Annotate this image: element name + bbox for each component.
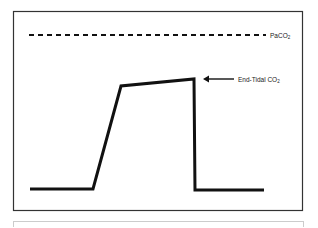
lower-panel [14, 222, 304, 228]
capnogram-diagram: PaCO2 End-Tidal CO2 [0, 0, 318, 227]
diagram-frame [14, 12, 303, 211]
